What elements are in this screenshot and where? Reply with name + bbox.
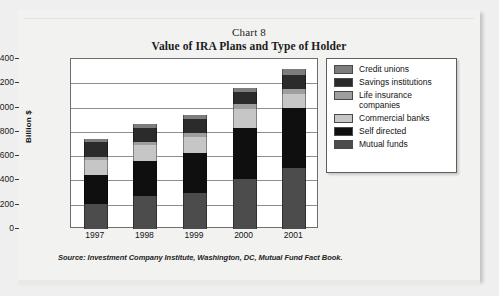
legend-item: Life insurance companies [334,90,456,110]
bar-segment [282,108,306,168]
source-note: Source: Investment Company Institute, Wa… [58,253,342,262]
bar-segment [133,124,157,128]
y-tick-mark [15,204,19,205]
legend-swatch [334,91,353,100]
legend-swatch [334,65,353,74]
bar-segment [233,92,257,104]
bar-segment [282,89,306,94]
bar-stack [84,59,108,229]
bar-stack [282,59,306,229]
x-tick-label: 1998 [135,230,154,240]
legend-label: Mutual funds [359,139,408,149]
chart-card: Chart 8 Value of IRA Plans and Type of H… [18,10,480,280]
bar-segment [133,145,157,161]
y-tick-mark [15,82,19,83]
bar-segment [84,139,108,143]
x-tick-label: 2000 [234,230,253,240]
y-tick-mark [15,107,19,108]
legend-item: Commercial banks [334,113,456,123]
bar-segment [133,161,157,196]
y-tick-label: 400 [0,174,14,184]
x-tick-label: 2001 [284,230,303,240]
y-axis-tick-labels: 0200400600800100012001400 [0,58,14,228]
legend-item: Self directed [334,126,456,136]
plot-wrapper [70,58,318,228]
y-tick-mark [15,58,19,59]
legend-label: Commercial banks [359,113,429,123]
y-tick-label: 1400 [0,53,14,63]
legend-swatch [334,140,353,149]
x-tick-label: 1999 [185,230,204,240]
bar-segment [183,193,207,229]
legend-swatch [334,78,353,87]
bar-segment [84,157,108,160]
bar-segment [84,142,108,157]
bar-stack [183,59,207,229]
bar-segment [282,94,306,107]
legend-label: Life insurance companies [359,90,451,110]
bar-segment [282,75,306,90]
legend-label: Credit unions [359,64,409,74]
y-tick-mark [15,179,19,180]
plot-area [70,58,318,228]
bar-segment [183,115,207,119]
chart-title-block: Chart 8 Value of IRA Plans and Type of H… [18,26,480,53]
bar-segment [183,133,207,137]
legend-swatch [334,127,353,136]
bar-segment [282,168,306,229]
legend-item: Savings institutions [334,77,456,87]
y-tick-mark [15,228,19,229]
chart-title: Value of IRA Plans and Type of Holder [18,39,480,53]
bar-stack [133,59,157,229]
legend-item: Mutual funds [334,139,456,149]
bar-stack [233,59,257,229]
bar-segment [133,128,157,143]
x-tick-label: 1997 [85,230,104,240]
bar-segment [183,119,207,134]
y-tick-label: 1000 [0,102,14,112]
bar-segment [233,104,257,109]
bar-segment [133,196,157,229]
bar-segment [84,175,108,204]
y-tick-label: 600 [0,150,14,160]
bar-segment [233,179,257,229]
chart-legend: Credit unionsSavings institutionsLife in… [326,58,457,173]
bar-segment [84,160,108,175]
bar-segment [183,153,207,192]
bar-segment [233,109,257,128]
y-tick-label: 200 [0,199,14,209]
bar-segment [133,142,157,145]
chart-screenshot: Chart 8 Value of IRA Plans and Type of H… [0,0,499,296]
bar-segment [183,137,207,153]
chart-number-label: Chart 8 [18,26,480,39]
y-axis-title: Billion $ [24,110,33,143]
bar-segment [282,69,306,74]
bar-segment [84,204,108,230]
bar-segment [233,128,257,179]
y-tick-mark [15,155,19,156]
y-tick-label: 1200 [0,77,14,87]
card-bottom-band [18,280,480,285]
y-tick-mark [15,131,19,132]
bars-layer [71,59,319,229]
legend-label: Savings institutions [359,77,432,87]
legend-item: Credit unions [334,64,456,74]
bar-segment [233,88,257,92]
y-tick-label: 800 [0,126,14,136]
legend-label: Self directed [359,126,406,136]
y-tick-label: 0 [9,223,14,233]
x-axis-tick-labels: 19971998199920002001 [70,230,318,244]
legend-swatch [334,114,353,123]
